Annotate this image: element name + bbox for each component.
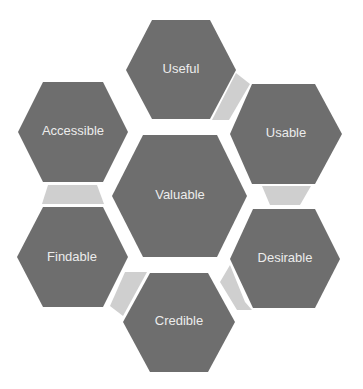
valuable-label: Valuable bbox=[155, 187, 205, 202]
honeycomb-diagram: Useful Usable Accessible Valuable Findab… bbox=[0, 0, 363, 389]
accessible-label: Accessible bbox=[42, 123, 104, 138]
findable-label: Findable bbox=[47, 249, 97, 264]
hexagon-useful: Useful bbox=[126, 20, 236, 119]
hexagon-credible: Credible bbox=[123, 273, 235, 372]
hexagon-accessible: Accessible bbox=[18, 82, 128, 182]
useful-label: Useful bbox=[163, 61, 200, 76]
connector-usable-desirable bbox=[262, 186, 311, 205]
credible-label: Credible bbox=[155, 313, 203, 328]
hexagon-desirable: Desirable bbox=[230, 209, 340, 308]
usable-label: Usable bbox=[266, 125, 306, 140]
desirable-label: Desirable bbox=[258, 250, 313, 265]
hexagon-usable: Usable bbox=[230, 84, 342, 184]
connector-findable-accessible bbox=[42, 185, 104, 204]
hexagon-findable: Findable bbox=[17, 207, 128, 307]
hexagon-valuable: Valuable bbox=[112, 135, 247, 257]
